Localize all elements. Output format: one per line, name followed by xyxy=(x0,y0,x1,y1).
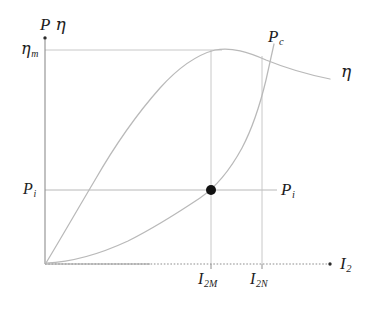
annotation-pi-right: Pi xyxy=(281,181,295,198)
x-tick-label-i2m: I2M xyxy=(198,271,217,287)
eta-glyph: η xyxy=(21,39,31,58)
x-tick-label-i2n: I2N xyxy=(250,271,267,287)
p-glyph: P xyxy=(23,180,33,197)
pi-right-subscript: i xyxy=(291,189,295,200)
y-axis-label-eta: η xyxy=(55,14,65,34)
x-axis-label: I2 xyxy=(340,255,352,272)
y-tick-label-p-input: Pi xyxy=(23,181,36,197)
x-axis-arrow-dot xyxy=(328,262,331,265)
y-tick-label-eta-max: ηm xyxy=(21,41,38,57)
i2m-subscript: 2M xyxy=(203,278,217,289)
annotation-pc: Pc xyxy=(268,28,284,45)
pc-glyph: P xyxy=(268,27,278,46)
y-axis-label-power: P xyxy=(40,15,50,34)
y-axis-arrow-dot xyxy=(43,36,46,39)
annotation-eta-curve: η xyxy=(341,63,351,80)
x-axis-label-subscript: 2 xyxy=(346,263,352,274)
pi-right-glyph: P xyxy=(281,180,291,199)
axes xyxy=(43,36,331,269)
eta-curve xyxy=(46,49,330,263)
power-curve xyxy=(46,44,274,263)
eta-max-subscript: m xyxy=(31,48,39,59)
operating-point-marker xyxy=(206,185,216,195)
x-axis-label-glyph: I xyxy=(340,254,346,273)
plot-canvas xyxy=(0,0,371,312)
efficiency-power-chart: Pη ηm Pi I2M I2N I2 Pc Pi η xyxy=(0,0,371,312)
p-input-subscript: i xyxy=(33,188,36,199)
y-axis-label: Pη xyxy=(40,16,66,33)
guide-lines xyxy=(45,50,277,264)
i2n-subscript: 2N xyxy=(255,278,267,289)
pc-subscript: c xyxy=(278,36,283,47)
